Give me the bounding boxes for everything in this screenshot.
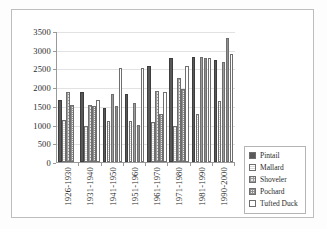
- bar: [169, 58, 172, 162]
- x-tick-mark: [190, 163, 191, 166]
- bar: [173, 126, 176, 162]
- x-tick-mark: [167, 163, 168, 166]
- bar: [88, 105, 91, 162]
- bar: [155, 91, 158, 162]
- x-axis-tick-label: 1981-1990: [197, 167, 207, 206]
- bar: [92, 106, 95, 162]
- bar: [230, 54, 233, 162]
- bar: [151, 122, 154, 162]
- bar: [200, 57, 203, 162]
- bar: [58, 100, 61, 162]
- bar: [62, 120, 65, 162]
- y-tick-mark: [53, 163, 56, 164]
- x-tick-mark: [212, 163, 213, 166]
- bar: [181, 89, 184, 162]
- y-axis-tick-label: 2500: [33, 64, 51, 74]
- legend-swatch-icon: [249, 188, 256, 195]
- legend-item: Shoveler: [249, 174, 302, 185]
- y-axis-tick-label: 1000: [33, 121, 51, 131]
- bar: [196, 114, 199, 162]
- y-axis-tick-label: 3500: [33, 27, 51, 37]
- x-tick-mark: [78, 163, 79, 166]
- bar-groups: [57, 32, 235, 162]
- bar: [222, 62, 225, 162]
- bar: [185, 66, 188, 162]
- bar: [159, 114, 162, 162]
- legend-label: Mallard: [260, 164, 284, 172]
- y-axis-tick-label: 2000: [33, 83, 51, 93]
- bar: [84, 126, 87, 162]
- x-tick-mark: [145, 163, 146, 166]
- y-axis-tick-label: 0: [47, 158, 51, 168]
- bar: [163, 92, 166, 162]
- x-axis-tick-label: 1990-2000: [219, 167, 229, 206]
- bar-group: [214, 32, 234, 162]
- x-tick-mark: [123, 163, 124, 166]
- y-axis-tick-label: 1500: [33, 102, 51, 112]
- bar: [115, 106, 118, 162]
- chart-legend: PintailMallardShovelerPochardTufted Duck: [244, 146, 306, 214]
- legend-label: Pochard: [260, 188, 285, 196]
- legend-label: Tufted Duck: [260, 200, 298, 208]
- x-axis-tick-label: 1951-1960: [130, 167, 140, 206]
- bar-group: [80, 32, 100, 162]
- bar: [147, 66, 150, 162]
- bar: [103, 108, 106, 162]
- legend-swatch-icon: [249, 176, 256, 183]
- bar-group: [103, 32, 123, 162]
- bar: [192, 57, 195, 162]
- x-axis-tick-label: 1971-1980: [174, 167, 184, 206]
- legend-item: Pintail: [249, 150, 302, 161]
- bar-group: [192, 32, 212, 162]
- bar: [218, 101, 221, 162]
- legend-label: Shoveler: [260, 176, 287, 184]
- bar-group: [58, 32, 78, 162]
- bar: [204, 58, 207, 162]
- bar: [137, 125, 140, 162]
- legend-swatch-icon: [249, 164, 256, 171]
- chart-figure: 0500100015002000250030003500 1926-193019…: [0, 0, 327, 229]
- y-axis-tick-label: 500: [38, 139, 51, 149]
- bar-group: [147, 32, 167, 162]
- x-axis-tick-label: 1961-1970: [152, 167, 162, 206]
- legend-swatch-icon: [249, 152, 256, 159]
- x-tick-mark: [234, 163, 235, 166]
- bar: [70, 105, 73, 162]
- bar: [129, 121, 132, 162]
- bar: [226, 38, 229, 162]
- bar: [119, 68, 122, 162]
- bar: [111, 94, 114, 162]
- x-axis-tick-label: 1941-1950: [108, 167, 118, 206]
- bar-group: [169, 32, 189, 162]
- bar: [125, 94, 128, 162]
- bar: [208, 58, 211, 162]
- x-axis-tick-label: 1931-1940: [85, 167, 95, 206]
- legend-label: Pintail: [260, 152, 280, 160]
- x-axis-tick-label: 1926-1930: [63, 167, 73, 206]
- bar: [214, 60, 217, 162]
- bar: [66, 92, 69, 162]
- legend-item: Mallard: [249, 162, 302, 173]
- bar: [133, 103, 136, 162]
- x-tick-mark: [101, 163, 102, 166]
- bar: [96, 100, 99, 163]
- legend-item: Tufted Duck: [249, 198, 302, 209]
- bar: [177, 78, 180, 162]
- bar: [107, 121, 110, 162]
- figure-frame: 0500100015002000250030003500 1926-193019…: [11, 9, 314, 218]
- bar-group: [125, 32, 145, 162]
- bar: [80, 92, 83, 162]
- legend-swatch-icon: [249, 200, 256, 207]
- plot-area: 0500100015002000250030003500 1926-193019…: [56, 32, 235, 163]
- y-axis-tick-label: 3000: [33, 46, 51, 56]
- legend-item: Pochard: [249, 186, 302, 197]
- bar: [141, 68, 144, 162]
